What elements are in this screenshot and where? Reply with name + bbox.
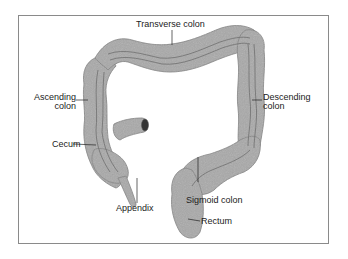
label-transverse-colon: Transverse colon	[136, 20, 205, 29]
label-ascending-line2: colon	[30, 102, 76, 111]
label-appendix: Appendix	[116, 204, 154, 213]
label-cecum: Cecum	[52, 140, 81, 149]
label-sigmoid-colon: Sigmoid colon	[186, 196, 243, 205]
label-ascending-colon: Ascending colon	[30, 93, 76, 111]
label-descending-colon: Descending colon	[263, 93, 311, 111]
ileum-opening	[142, 119, 149, 131]
label-descending-line2: colon	[263, 102, 311, 111]
colon-illustration	[0, 0, 348, 259]
label-rectum: Rectum	[201, 217, 232, 226]
transverse-colon	[95, 26, 257, 73]
